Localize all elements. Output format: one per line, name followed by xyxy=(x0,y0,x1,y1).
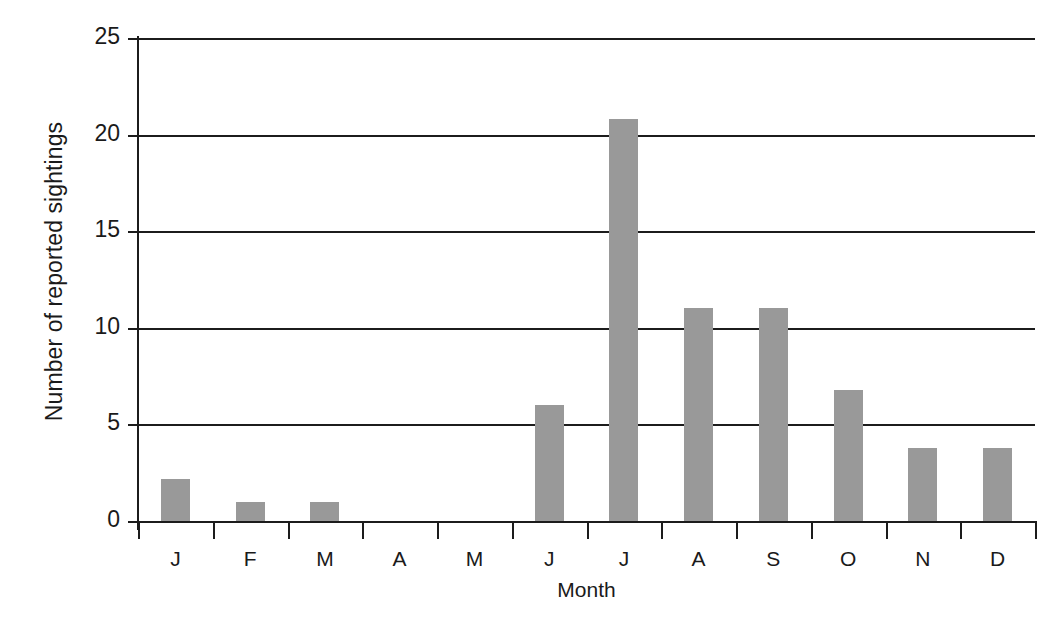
y-tick-label-0: 0 xyxy=(60,508,120,531)
x-tick-mark-7 xyxy=(661,521,663,539)
bar-7 xyxy=(684,308,713,521)
x-axis-label-1: F xyxy=(213,548,287,569)
x-tick-mark-5 xyxy=(512,521,514,539)
x-tick-mark-0 xyxy=(138,521,140,539)
bar-11 xyxy=(983,448,1012,521)
gridline-25 xyxy=(138,38,1035,40)
y-tick-label-10: 10 xyxy=(60,315,120,338)
y-tick-label-5: 5 xyxy=(60,411,120,434)
x-axis-label-11: D xyxy=(961,548,1035,569)
gridline-10 xyxy=(138,328,1035,330)
x-tick-mark-11 xyxy=(960,521,962,539)
y-tick-label-25: 25 xyxy=(60,25,120,48)
x-tick-mark-4 xyxy=(437,521,439,539)
gridline-5 xyxy=(138,424,1035,426)
bar-10 xyxy=(908,448,937,521)
gridline-20 xyxy=(138,135,1035,137)
x-axis-label-9: O xyxy=(811,548,885,569)
x-axis-label-8: S xyxy=(736,548,810,569)
gridline-15 xyxy=(138,231,1035,233)
x-tick-mark-6 xyxy=(587,521,589,539)
x-tick-mark-9 xyxy=(811,521,813,539)
x-axis-label-2: M xyxy=(288,548,362,569)
bar-9 xyxy=(834,390,863,521)
bar-6 xyxy=(609,119,638,521)
bar-8 xyxy=(759,308,788,521)
x-axis-label-7: A xyxy=(662,548,736,569)
bar-5 xyxy=(535,405,564,521)
x-tick-mark-10 xyxy=(886,521,888,539)
bar-1 xyxy=(236,502,265,521)
y-tick-label-20: 20 xyxy=(60,122,120,145)
x-axis-label-4: M xyxy=(437,548,511,569)
bar-0 xyxy=(161,479,190,522)
x-axis-title: Month xyxy=(138,578,1035,602)
bar-2 xyxy=(310,502,339,521)
x-tick-mark-3 xyxy=(362,521,364,539)
x-axis-label-0: J xyxy=(138,548,212,569)
y-tick-label-15: 15 xyxy=(60,218,120,241)
x-tick-mark-12 xyxy=(1035,521,1037,539)
plot-area xyxy=(138,38,1035,521)
y-axis-title: Number of reported sightings xyxy=(41,22,68,522)
x-axis-label-10: N xyxy=(886,548,960,569)
x-axis-label-3: A xyxy=(363,548,437,569)
x-tick-mark-1 xyxy=(213,521,215,539)
x-axis-label-5: J xyxy=(512,548,586,569)
x-axis-label-6: J xyxy=(587,548,661,569)
x-tick-mark-8 xyxy=(736,521,738,539)
x-tick-mark-2 xyxy=(288,521,290,539)
bar-chart: Number of reported sightings 0510152025 … xyxy=(0,0,1042,617)
